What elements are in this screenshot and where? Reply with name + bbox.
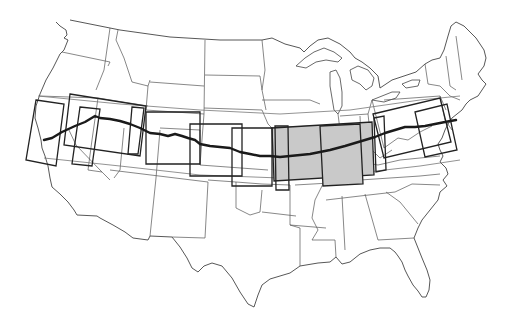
state-boundaries <box>40 28 462 266</box>
us-route-map <box>0 0 513 325</box>
us-outline <box>35 20 486 307</box>
lake-erie <box>372 92 400 102</box>
mexico-border <box>100 218 254 307</box>
lake-michigan <box>330 70 342 114</box>
florida <box>398 238 430 297</box>
gulf-coast <box>254 248 398 307</box>
lake-huron <box>350 66 374 90</box>
lake-ontario <box>402 80 420 88</box>
index-box-highlighted[interactable] <box>320 124 363 186</box>
